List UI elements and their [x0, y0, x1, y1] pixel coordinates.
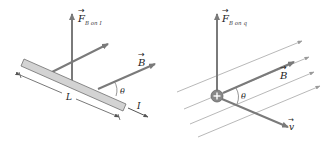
magnetic-force-diagram: F → B on I B → θ L I — [0, 0, 328, 148]
velocity-label: v → — [288, 116, 294, 132]
angle-arc-charge — [236, 88, 238, 104]
field-lines — [177, 41, 320, 137]
svg-text:B on I: B on I — [84, 20, 102, 26]
svg-text:→: → — [280, 63, 287, 72]
field-label-wire: B → — [137, 50, 145, 68]
current-label: I — [136, 101, 141, 111]
field-label-charge: B → — [279, 63, 287, 81]
length-label: L — [65, 92, 72, 102]
force-label-charge: F → B on q — [221, 6, 247, 27]
svg-text:→: → — [138, 50, 145, 59]
wire-bar — [21, 59, 126, 111]
svg-text:→: → — [78, 6, 85, 15]
field-arrow-upper — [50, 44, 108, 73]
svg-text:→: → — [288, 116, 294, 124]
angle-arc-wire — [114, 81, 117, 96]
svg-text:→: → — [222, 6, 229, 15]
field-arrow-lower — [98, 64, 155, 89]
charge-panel: F → B on q B → θ v → — [177, 6, 320, 137]
positive-charge — [211, 90, 223, 102]
force-label-wire: F → B on I — [77, 6, 102, 26]
svg-text:B on q: B on q — [228, 20, 247, 27]
angle-label-charge: θ — [241, 92, 246, 101]
wire-panel: F → B on I B → θ L I — [19, 6, 155, 120]
angle-label-wire: θ — [120, 87, 125, 96]
